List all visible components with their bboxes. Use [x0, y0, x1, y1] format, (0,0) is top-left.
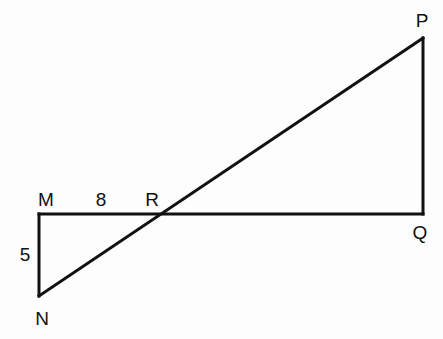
length-label-MR: 8 [96, 190, 107, 209]
segment-NP [39, 38, 423, 296]
vertex-label-R: R [145, 190, 159, 209]
vertex-label-M: M [38, 190, 54, 209]
vertex-label-Q: Q [413, 223, 428, 242]
length-label-MN: 5 [20, 245, 31, 264]
diagram-lines [0, 0, 443, 339]
vertex-label-P: P [416, 11, 429, 30]
geometry-diagram: M 8 R 5 N Q P [0, 0, 443, 339]
vertex-label-N: N [35, 309, 49, 328]
